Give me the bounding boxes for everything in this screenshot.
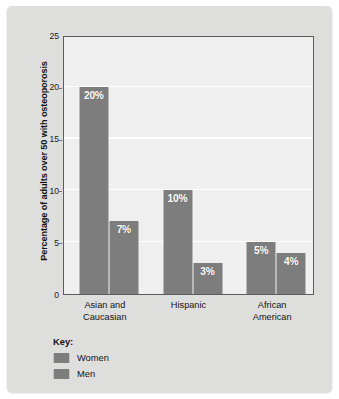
legend-label: Women <box>77 353 109 363</box>
x-axis-category-label-line: Asian and <box>63 300 147 312</box>
x-axis-category-label-line: African <box>230 300 314 312</box>
y-axis-tick-label: 10 <box>37 187 59 196</box>
y-axis-tick-mark <box>59 88 62 89</box>
y-axis-tick-label: 20 <box>37 83 59 92</box>
x-axis-category-label: Asian andCaucasian <box>63 300 147 323</box>
bar-value-label: 7% <box>110 224 138 235</box>
bar: 7% <box>109 221 139 294</box>
y-axis-tick-label: 15 <box>37 135 59 144</box>
plot-area: 20%7%10%3%5%4% <box>63 36 314 295</box>
legend-label: Men <box>77 369 95 379</box>
x-axis-category-labels: Asian andCaucasianHispanicAfricanAmerica… <box>63 300 314 334</box>
bar: 10% <box>163 190 193 294</box>
bar-value-label: 5% <box>247 245 275 256</box>
figure-card: Percentage of adults over 50 with osteop… <box>7 6 332 392</box>
legend-item: Women <box>53 351 183 365</box>
bar-value-label: 20% <box>80 90 108 101</box>
legend-items: WomenMen <box>53 351 183 381</box>
legend-item: Men <box>53 367 183 381</box>
bar: 3% <box>193 263 223 294</box>
y-axis-tick-label: 0 <box>37 291 59 300</box>
legend-swatch <box>53 353 70 363</box>
chart-legend: Key: WomenMen <box>53 337 183 383</box>
x-axis-category-label-line: Caucasian <box>63 312 147 324</box>
y-axis-tick-mark <box>59 191 62 192</box>
bar-chart: Percentage of adults over 50 with osteop… <box>7 6 332 392</box>
bar: 4% <box>276 253 306 294</box>
y-axis-tick-mark <box>59 140 62 141</box>
bar: 5% <box>246 242 276 294</box>
x-axis-category-label-line: American <box>230 312 314 324</box>
x-axis-category-label: Hispanic <box>147 300 231 312</box>
legend-title: Key: <box>53 337 183 347</box>
y-axis-tick-labels: 0510152025 <box>37 30 59 300</box>
x-axis-category-label-line: Hispanic <box>147 300 231 312</box>
y-axis-tick-mark <box>59 243 62 244</box>
bar-value-label: 10% <box>164 193 192 204</box>
legend-swatch <box>53 369 70 379</box>
bar-value-label: 4% <box>277 256 305 267</box>
y-axis-tick-label: 25 <box>37 32 59 41</box>
bar-value-label: 3% <box>194 266 222 277</box>
x-axis-category-label: AfricanAmerican <box>230 300 314 323</box>
y-axis-tick-label: 5 <box>37 239 59 248</box>
bar: 20% <box>79 87 109 294</box>
